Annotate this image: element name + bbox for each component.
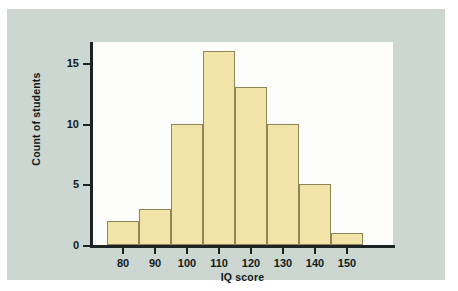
y-axis-title: Count of students <box>30 59 42 179</box>
histogram-bar <box>107 221 139 245</box>
y-axis-line <box>90 42 93 247</box>
x-axis-tick-130 <box>282 247 284 254</box>
y-axis-tick-10 <box>83 124 91 126</box>
histogram-bar <box>203 51 235 245</box>
y-axis-tick-15 <box>83 63 91 65</box>
x-axis-line <box>90 245 395 248</box>
y-axis-tick-label-10: 10 <box>57 119 79 130</box>
x-axis-tick-120 <box>250 247 252 254</box>
x-axis-tick-label-150: 150 <box>327 257 367 269</box>
x-axis-tick-80 <box>122 247 124 254</box>
x-axis-title: IQ score <box>92 271 393 283</box>
x-axis-tick-100 <box>186 247 188 254</box>
histogram-bar <box>139 209 171 245</box>
y-axis-tick-label-0: 0 <box>57 240 79 251</box>
histogram-bar <box>299 184 331 245</box>
y-axis-tick-label-15: 15 <box>57 58 79 69</box>
x-axis-tick-110 <box>218 247 220 254</box>
y-axis-tick-0 <box>83 245 91 247</box>
histogram-bar <box>171 124 203 245</box>
histogram-bar <box>331 233 363 245</box>
x-axis-tick-140 <box>314 247 316 254</box>
histogram-bar <box>235 87 267 245</box>
x-axis-tick-90 <box>154 247 156 254</box>
histogram-bar <box>267 124 299 245</box>
histogram-figure: 15 10 5 0 80 90 100 110 120 130 140 150 <box>0 0 458 291</box>
y-axis-tick-label-5: 5 <box>57 179 79 190</box>
figure-panel-background: 15 10 5 0 80 90 100 110 120 130 140 150 <box>7 9 445 280</box>
y-axis-tick-5 <box>83 184 91 186</box>
x-axis-tick-150 <box>346 247 348 254</box>
